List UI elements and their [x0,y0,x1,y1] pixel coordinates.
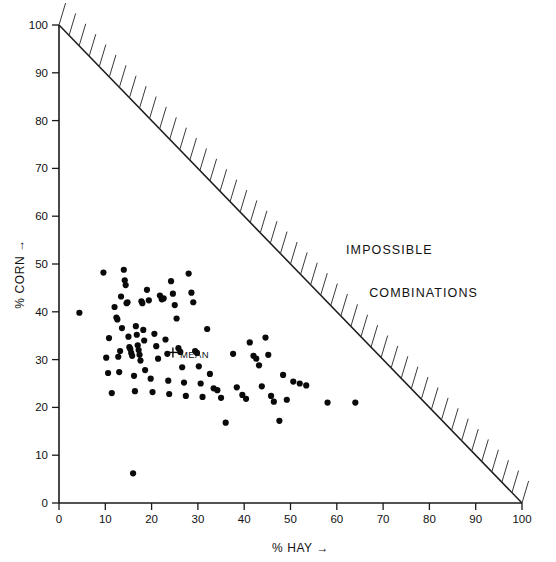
data-point [142,367,148,373]
data-point [155,356,161,362]
y-tick-label: 30 [35,354,48,366]
data-points [76,267,358,477]
hatch-line [280,232,287,254]
y-tick-label: 60 [35,210,48,222]
y-tick-label: 40 [35,306,48,318]
data-point [121,267,127,273]
data-point [352,400,358,406]
hatch-line [462,419,469,441]
hatch-line [220,169,227,191]
data-point [151,331,157,337]
data-point [132,388,138,394]
data-point [280,372,286,378]
hatch-line [371,325,378,347]
hatch-line [150,97,157,119]
data-point [199,394,205,400]
data-point [218,395,224,401]
data-point [141,337,147,343]
hatch-line [291,242,298,264]
data-point [162,336,168,342]
hatch-line [331,284,338,306]
x-tick-label: 90 [469,513,482,525]
hatch-line [391,346,398,368]
data-point [198,380,204,386]
data-point [179,364,185,370]
hatch-line [59,3,66,25]
hatch-line [99,45,106,67]
hatch-line [170,117,177,139]
x-tick-label: 30 [192,513,205,525]
data-point [303,382,309,388]
x-tick-label: 100 [512,513,531,525]
data-point [183,393,189,399]
data-point [161,295,167,301]
data-point [262,335,268,341]
data-point [114,316,120,322]
hatch-line [421,377,428,399]
y-tick-label: 90 [35,67,48,79]
hatch-line [180,128,187,150]
data-point [144,287,150,293]
hatch-line [311,263,318,285]
x-tick-label: 20 [145,513,158,525]
hatch-line [190,138,197,160]
hatch-line [160,107,167,129]
y-tick-label: 100 [29,19,48,31]
x-tick-label: 80 [423,513,436,525]
hatch-group [59,3,529,503]
data-point [153,343,159,349]
hatch-line [361,315,368,337]
data-point [172,302,178,308]
hatch-line [381,336,388,358]
plot-area: 0102030405060708090100010203040506070809… [0,0,556,562]
data-point [139,300,145,306]
y-tick-label: 10 [35,449,48,461]
data-point [271,399,277,405]
data-point [109,390,115,396]
data-point [146,297,152,303]
data-point [166,391,172,397]
data-point [133,323,139,329]
data-point [297,380,303,386]
hatch-line [129,76,136,98]
y-axis-title: % CORN → [13,239,27,308]
data-point [324,400,330,406]
data-point [117,348,123,354]
data-point [123,282,129,288]
x-tick-label: 10 [99,513,112,525]
hatch-line [230,180,237,202]
data-point [119,325,125,331]
data-point [290,378,296,384]
hatch-line [79,24,86,46]
data-point [188,290,194,296]
hatch-line [522,481,529,503]
data-point [105,370,111,376]
hatch-line [250,200,257,222]
data-point [186,270,192,276]
hatch-line [492,450,499,472]
data-point [124,299,130,305]
hatch-line [341,294,348,316]
data-point [265,352,271,358]
data-point [164,351,170,357]
data-point [115,354,121,360]
x-tick-label: 0 [56,513,62,525]
x-tick-label: 40 [238,513,251,525]
data-point [190,299,196,305]
data-point [243,396,249,402]
data-point [140,327,146,333]
hatch-line [411,367,418,389]
hatch-line [441,398,448,420]
combinations-label: COMBINATIONS [369,286,478,300]
impossible-label: IMPOSSIBLE [346,243,433,257]
data-point [106,335,112,341]
data-point [204,326,210,332]
data-point [118,293,124,299]
hatch-line [200,148,207,170]
data-point [247,339,253,345]
y-tick-label: 70 [35,162,48,174]
data-point [214,387,220,393]
mean-label: MEAN [180,349,209,360]
data-point [134,332,140,338]
data-point [125,334,131,340]
